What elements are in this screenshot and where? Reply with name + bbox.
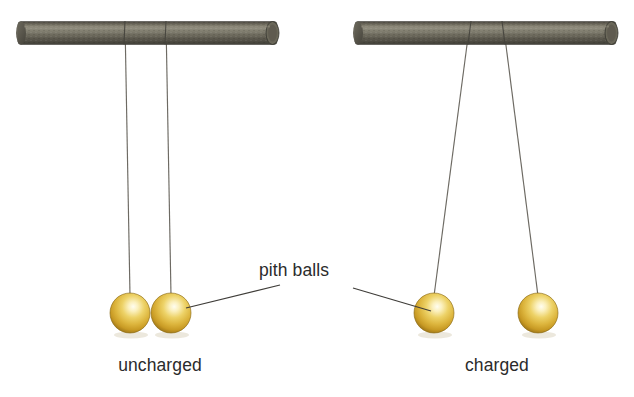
string-right-1: [434, 22, 470, 296]
pith-balls-annotation: pith balls: [186, 260, 431, 311]
support-rod-left: [16, 22, 279, 45]
charged-assembly: charged: [353, 21, 618, 375]
leader-line-left: [186, 285, 280, 308]
caption-charged: charged: [465, 355, 529, 375]
annotation-label: pith balls: [259, 260, 329, 280]
caption-uncharged: uncharged: [118, 355, 202, 375]
string-right-2: [503, 22, 538, 296]
diagram-canvas: uncharged: [0, 0, 634, 397]
support-rod-right: [353, 22, 618, 45]
pith-ball-charged-2: [518, 293, 558, 338]
pith-ball-uncharged-1: [110, 293, 150, 338]
uncharged-strings: [125, 22, 171, 296]
pith-ball-uncharged-2: [151, 293, 191, 338]
physics-diagram: uncharged: [0, 0, 634, 397]
string-left-1: [125, 22, 130, 296]
uncharged-assembly: uncharged: [16, 21, 279, 375]
pith-ball-charged-1: [414, 293, 454, 338]
string-left-2: [166, 22, 171, 296]
charged-strings: [434, 22, 538, 296]
